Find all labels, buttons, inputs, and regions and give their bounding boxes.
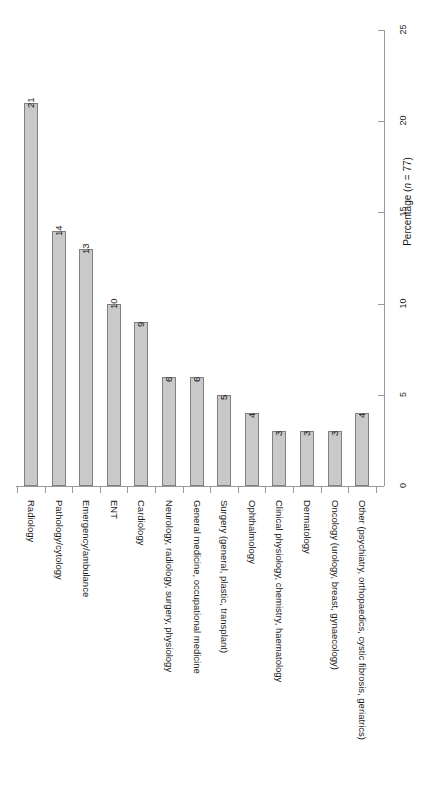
bar [272, 431, 286, 486]
bar-value-label: 3 [330, 431, 340, 436]
bar-chart: 0510152025 Percentage (n = 77) 211413109… [0, 0, 439, 795]
category-axis-label: Oncology (urology, breast, gynaecology) [330, 500, 340, 670]
bar-value-label: 10 [109, 298, 119, 309]
bar-value-label: 6 [192, 376, 202, 381]
category-axis-label: Clinical physiology, chemistry, haematol… [274, 500, 284, 682]
category-axis-tick [376, 487, 377, 493]
category-axis-tick [238, 487, 239, 493]
bar [355, 413, 369, 486]
value-axis-tick-label: 0 [399, 475, 408, 497]
category-axis-tick [210, 487, 211, 493]
category-axis-tick [72, 487, 73, 493]
value-axis-title: Percentage (n = 77) [402, 132, 413, 272]
category-axis-label: ENT [109, 500, 119, 519]
bar-value-label: 3 [302, 431, 312, 436]
category-axis-label: Other (psychiatry, orthopaedics, cystic … [357, 500, 367, 740]
bar [328, 431, 342, 486]
category-axis-label: General medicine, occupational medicine [192, 500, 202, 674]
category-axis-label: Dermatology [302, 500, 312, 554]
category-axis-label: Cardiology [136, 500, 146, 545]
bar [162, 377, 176, 486]
value-axis-title-italic-n: n [402, 183, 413, 189]
category-axis-tick [100, 487, 101, 493]
value-axis-title-suffix: = 77) [402, 157, 413, 183]
bar [107, 304, 121, 486]
bar [134, 322, 148, 486]
bar [217, 395, 231, 486]
bar-value-label: 21 [26, 97, 36, 108]
bar-value-label: 4 [247, 413, 257, 418]
bar [79, 249, 93, 486]
value-axis-title-prefix: Percentage ( [402, 189, 413, 246]
category-axis-tick [348, 487, 349, 493]
bar [24, 103, 38, 486]
category-axis-tick [155, 487, 156, 493]
value-axis-tick [378, 121, 384, 122]
bar-value-label: 14 [54, 225, 64, 236]
value-axis-tick-label: 25 [399, 19, 408, 41]
category-axis-label: Emergency/ambulance [81, 500, 91, 597]
category-axis-tick [321, 487, 322, 493]
category-axis-label: Neurology, radiology, surgery, physiolog… [164, 500, 174, 672]
category-axis-tick [17, 487, 18, 493]
category-axis-tick [293, 487, 294, 493]
bar-value-label: 5 [219, 395, 229, 400]
bar [190, 377, 204, 486]
category-axis-tick [45, 487, 46, 493]
category-axis-label: Ophthalmology [247, 500, 257, 564]
value-axis-tick [378, 304, 384, 305]
bar [52, 231, 66, 486]
bar-value-label: 4 [357, 413, 367, 418]
value-axis-tick-label: 10 [399, 292, 408, 314]
category-axis-tick [265, 487, 266, 493]
bar-value-label: 6 [164, 376, 174, 381]
value-axis-tick-label: 5 [399, 383, 408, 405]
category-axis-tick [127, 487, 128, 493]
bar [300, 431, 314, 486]
bar-value-label: 3 [274, 431, 284, 436]
category-axis-label: Surgery (general, plastic, transplant) [219, 500, 229, 653]
category-axis-label: Radiology [26, 500, 36, 542]
bar [245, 413, 259, 486]
value-axis-line [384, 30, 385, 486]
bar-value-label: 13 [81, 243, 91, 254]
value-axis-tick [378, 30, 384, 31]
bar-value-label: 9 [136, 322, 146, 327]
value-axis-tick-label: 20 [399, 110, 408, 132]
value-axis-tick [378, 395, 384, 396]
category-axis-line [16, 486, 384, 487]
category-axis-label: Pathology/cytology [54, 500, 64, 580]
value-axis-tick [378, 212, 384, 213]
category-axis-tick [183, 487, 184, 493]
